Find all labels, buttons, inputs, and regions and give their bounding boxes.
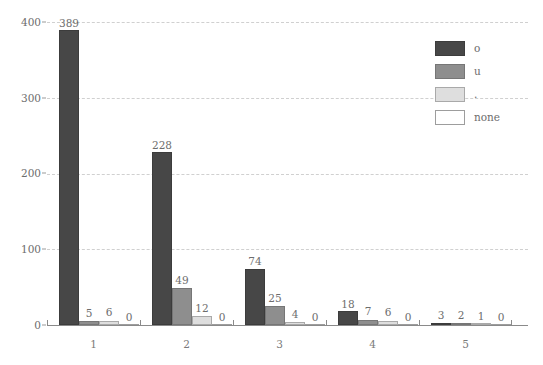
bar-value-group5-u: 2: [458, 309, 465, 321]
bar-group-4: 18 7 6 0: [326, 22, 419, 325]
x-tick-label-1: 1: [90, 338, 97, 350]
bar-group-2: 228 49 12 0: [140, 22, 233, 325]
y-tick-mark-100: [42, 249, 46, 250]
bar-value-group4-o: 18: [341, 298, 354, 310]
legend-item-dot[interactable]: .: [435, 83, 535, 106]
y-tick-mark-400: [42, 22, 46, 23]
x-tick-label-2: 2: [183, 338, 190, 350]
bar-group4-series-o[interactable]: [338, 311, 358, 325]
y-tick-label-0: 0: [11, 319, 41, 331]
bar-value-group1-o: 389: [59, 17, 79, 29]
bar-group3-series-o[interactable]: [245, 269, 265, 325]
bar-value-group5-o: 3: [438, 309, 445, 321]
y-tick-mark-0: [42, 325, 46, 326]
bar-value-group1-dot: 6: [106, 306, 113, 318]
legend-label-o: o: [474, 43, 480, 54]
bar-group-3: 74 25 4 0: [233, 22, 326, 325]
bar-value-group2-none: 0: [219, 311, 226, 323]
legend: o u . none: [435, 37, 535, 129]
bar-value-group3-dot: 4: [292, 308, 299, 320]
bar-value-group3-none: 0: [312, 311, 319, 323]
y-tick-label-100: 100: [11, 243, 41, 255]
x-tick-label-4: 4: [369, 338, 376, 350]
y-tick-label-300: 300: [11, 92, 41, 104]
y-tick-mark-200: [42, 173, 46, 174]
x-tick-label-3: 3: [276, 338, 283, 350]
legend-swatch-none: [435, 110, 465, 125]
legend-item-none[interactable]: none: [435, 106, 535, 129]
bar-value-group1-none: 0: [126, 311, 133, 323]
bar-value-group2-dot: 12: [195, 302, 208, 314]
bar-group3-series-u[interactable]: [265, 306, 285, 325]
legend-swatch-dot: [435, 87, 465, 102]
y-tick-label-400: 400: [11, 16, 41, 28]
bar-value-group4-u: 7: [365, 305, 372, 317]
legend-label-u: u: [474, 66, 481, 77]
x-tick-label-5: 5: [462, 338, 469, 350]
x-axis-line: [47, 325, 528, 326]
bar-value-group3-u: 25: [268, 292, 281, 304]
bar-group2-series-u[interactable]: [172, 288, 192, 325]
bar-value-group5-dot: 1: [478, 310, 485, 322]
legend-label-dot: .: [474, 89, 477, 100]
bar-value-group4-none: 0: [405, 311, 412, 323]
legend-item-o[interactable]: o: [435, 37, 535, 60]
y-axis: 400 300 200 100 0: [0, 0, 41, 365]
y-tick-mark-300: [42, 98, 46, 99]
bar-group2-series-o[interactable]: [152, 152, 172, 325]
bar-value-group4-dot: 6: [385, 306, 392, 318]
bar-group-1: 389 5 6 0: [47, 22, 140, 325]
legend-label-none: none: [474, 112, 500, 123]
y-tick-label-200: 200: [11, 167, 41, 179]
bar-value-group2-o: 228: [152, 139, 172, 151]
legend-swatch-u: [435, 64, 465, 79]
bar-group1-series-o[interactable]: [59, 30, 79, 325]
bar-group2-series-dot[interactable]: [192, 316, 212, 325]
bar-value-group2-u: 49: [175, 274, 188, 286]
legend-item-u[interactable]: u: [435, 60, 535, 83]
bar-value-group1-u: 5: [86, 307, 93, 319]
bar-value-group5-none: 0: [498, 311, 505, 323]
legend-swatch-o: [435, 41, 465, 56]
bar-chart: 400 300 200 100 0 389 5 6 0: [0, 0, 543, 365]
bar-value-group3-o: 74: [248, 255, 261, 267]
